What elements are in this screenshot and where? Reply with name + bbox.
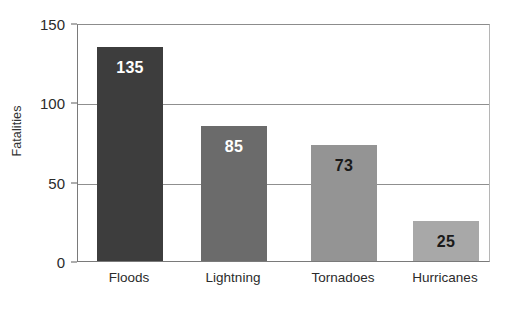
- bar-value-label: 85: [201, 138, 267, 156]
- y-axis-tick-label: 150: [10, 16, 72, 33]
- bar[interactable]: 135: [97, 47, 163, 261]
- bar-chart-figure: Fatalities 050100150 135857325 FloodsLig…: [0, 0, 514, 309]
- y-axis-tick-mark: [71, 262, 77, 263]
- y-axis-tick-mark: [71, 182, 77, 183]
- x-axis-category-label: Lightning: [176, 270, 290, 285]
- bar[interactable]: 73: [311, 145, 377, 261]
- y-axis-tick-mark: [71, 24, 77, 25]
- bar-value-label: 73: [311, 157, 377, 175]
- bar-value-label: 25: [413, 233, 479, 251]
- y-axis-tick-label: 50: [10, 174, 72, 191]
- y-axis-tick-mark: [71, 103, 77, 104]
- y-axis-title: Fatalities: [0, 0, 34, 262]
- x-axis-category-label: Floods: [72, 270, 186, 285]
- y-axis-tick-label: 0: [10, 254, 72, 271]
- plot-area: 135857325: [77, 24, 490, 262]
- x-axis-category-label: Hurricanes: [388, 270, 502, 285]
- x-axis-category-label: Tornadoes: [286, 270, 400, 285]
- bar[interactable]: 85: [201, 126, 267, 261]
- y-axis-tick-label: 100: [10, 95, 72, 112]
- bar[interactable]: 25: [413, 221, 479, 261]
- y-axis-title-text: Fatalities: [10, 105, 24, 156]
- bar-value-label: 135: [97, 59, 163, 77]
